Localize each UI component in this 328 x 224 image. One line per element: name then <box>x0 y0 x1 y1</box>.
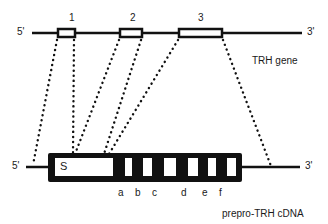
exon-1-box <box>58 29 75 37</box>
segment-d-block <box>188 158 198 176</box>
signal-label: S <box>60 161 67 172</box>
map-line-exon3-start <box>109 40 178 154</box>
exon-1-label: 1 <box>69 13 75 23</box>
gene-title: TRH gene <box>252 56 298 66</box>
map-line-exon1-start <box>33 40 57 165</box>
gene-three-prime-label: 3' <box>307 27 314 37</box>
exon-3-label: 3 <box>198 13 204 23</box>
map-line-exon2-start <box>75 40 119 154</box>
cdna-title: prepro-TRH cDNA <box>222 209 304 219</box>
segment-b-block <box>143 158 152 176</box>
segment-b-label: b <box>135 188 141 198</box>
cdna-three-prime-label: 3' <box>305 161 312 171</box>
segment-a-label: a <box>118 188 124 198</box>
diagram-canvas <box>0 0 328 224</box>
exon-3-box <box>179 29 222 37</box>
map-line-exon2-end <box>104 40 141 154</box>
map-line-exon1-end <box>73 40 74 154</box>
segment-e-block <box>208 158 216 176</box>
exon-2-label: 2 <box>130 13 136 23</box>
segment-d-label: d <box>181 188 187 198</box>
segment-a-block <box>125 158 132 176</box>
cdna-five-prime-label: 5' <box>12 161 19 171</box>
exon-2-box <box>120 29 142 37</box>
segment-e-label: e <box>202 188 208 198</box>
segment-f-label: f <box>219 188 222 198</box>
segment-f-block <box>227 158 236 176</box>
gene-five-prime-label: 5' <box>17 27 24 37</box>
segment-c-label: c <box>152 188 157 198</box>
segment-c-block <box>164 158 176 176</box>
